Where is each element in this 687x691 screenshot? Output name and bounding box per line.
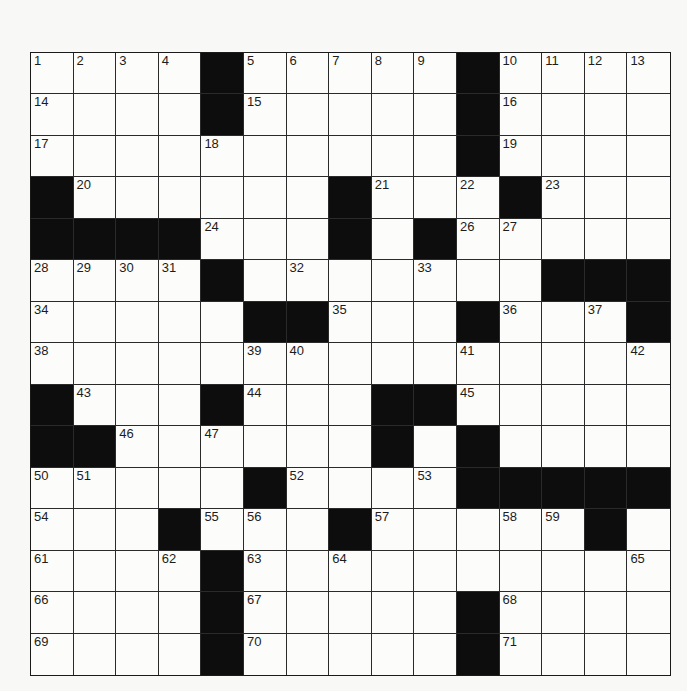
grid-cell[interactable] <box>627 509 670 550</box>
grid-cell[interactable] <box>329 592 372 633</box>
grid-cell[interactable]: 2 <box>74 53 117 94</box>
grid-cell[interactable]: 21 <box>372 177 415 218</box>
grid-cell[interactable]: 51 <box>74 468 117 509</box>
grid-cell[interactable]: 44 <box>244 385 287 426</box>
grid-cell[interactable] <box>585 94 628 135</box>
grid-cell[interactable]: 52 <box>287 468 330 509</box>
grid-cell[interactable] <box>627 592 670 633</box>
grid-cell[interactable] <box>372 592 415 633</box>
grid-cell[interactable] <box>414 136 457 177</box>
grid-cell[interactable]: 57 <box>372 509 415 550</box>
grid-cell[interactable]: 70 <box>244 634 287 675</box>
grid-cell[interactable] <box>500 260 543 301</box>
grid-cell[interactable] <box>414 426 457 467</box>
grid-cell[interactable]: 56 <box>244 509 287 550</box>
grid-cell[interactable] <box>585 385 628 426</box>
grid-cell[interactable] <box>74 136 117 177</box>
grid-cell[interactable]: 11 <box>542 53 585 94</box>
grid-cell[interactable] <box>159 592 202 633</box>
grid-cell[interactable] <box>244 260 287 301</box>
grid-cell[interactable]: 53 <box>414 468 457 509</box>
grid-cell[interactable] <box>244 136 287 177</box>
grid-cell[interactable]: 38 <box>31 343 74 384</box>
grid-cell[interactable]: 33 <box>414 260 457 301</box>
grid-cell[interactable] <box>116 343 159 384</box>
grid-cell[interactable] <box>287 592 330 633</box>
grid-cell[interactable]: 12 <box>585 53 628 94</box>
grid-cell[interactable]: 42 <box>627 343 670 384</box>
grid-cell[interactable] <box>116 302 159 343</box>
grid-cell[interactable]: 67 <box>244 592 287 633</box>
grid-cell[interactable] <box>500 385 543 426</box>
grid-cell[interactable]: 27 <box>500 219 543 260</box>
grid-cell[interactable]: 20 <box>74 177 117 218</box>
grid-cell[interactable]: 13 <box>627 53 670 94</box>
grid-cell[interactable]: 35 <box>329 302 372 343</box>
grid-cell[interactable] <box>159 136 202 177</box>
grid-cell[interactable] <box>287 634 330 675</box>
grid-cell[interactable] <box>372 343 415 384</box>
grid-cell[interactable] <box>116 468 159 509</box>
grid-cell[interactable] <box>372 634 415 675</box>
grid-cell[interactable]: 47 <box>201 426 244 467</box>
grid-cell[interactable]: 37 <box>585 302 628 343</box>
grid-cell[interactable] <box>116 94 159 135</box>
grid-cell[interactable] <box>287 177 330 218</box>
grid-cell[interactable] <box>116 634 159 675</box>
grid-cell[interactable] <box>201 468 244 509</box>
grid-cell[interactable] <box>74 634 117 675</box>
grid-cell[interactable] <box>585 634 628 675</box>
grid-cell[interactable]: 45 <box>457 385 500 426</box>
grid-cell[interactable] <box>116 177 159 218</box>
grid-cell[interactable] <box>542 551 585 592</box>
grid-cell[interactable] <box>627 385 670 426</box>
grid-cell[interactable]: 4 <box>159 53 202 94</box>
grid-cell[interactable] <box>585 177 628 218</box>
grid-cell[interactable] <box>201 343 244 384</box>
grid-cell[interactable] <box>287 385 330 426</box>
grid-cell[interactable] <box>244 177 287 218</box>
grid-cell[interactable] <box>244 219 287 260</box>
grid-cell[interactable]: 6 <box>287 53 330 94</box>
grid-cell[interactable]: 69 <box>31 634 74 675</box>
grid-cell[interactable] <box>287 551 330 592</box>
grid-cell[interactable]: 61 <box>31 551 74 592</box>
grid-cell[interactable] <box>329 385 372 426</box>
grid-cell[interactable] <box>116 136 159 177</box>
grid-cell[interactable] <box>542 592 585 633</box>
grid-cell[interactable] <box>159 94 202 135</box>
grid-cell[interactable]: 1 <box>31 53 74 94</box>
grid-cell[interactable] <box>542 302 585 343</box>
grid-cell[interactable] <box>585 343 628 384</box>
grid-cell[interactable]: 15 <box>244 94 287 135</box>
grid-cell[interactable] <box>457 260 500 301</box>
grid-cell[interactable] <box>372 136 415 177</box>
grid-cell[interactable]: 64 <box>329 551 372 592</box>
grid-cell[interactable] <box>74 592 117 633</box>
grid-cell[interactable] <box>74 302 117 343</box>
grid-cell[interactable]: 63 <box>244 551 287 592</box>
grid-cell[interactable]: 16 <box>500 94 543 135</box>
grid-cell[interactable]: 5 <box>244 53 287 94</box>
grid-cell[interactable] <box>542 136 585 177</box>
grid-cell[interactable] <box>159 302 202 343</box>
grid-cell[interactable]: 32 <box>287 260 330 301</box>
grid-cell[interactable] <box>414 177 457 218</box>
grid-cell[interactable]: 9 <box>414 53 457 94</box>
grid-cell[interactable]: 23 <box>542 177 585 218</box>
grid-cell[interactable]: 18 <box>201 136 244 177</box>
grid-cell[interactable] <box>201 302 244 343</box>
grid-cell[interactable] <box>287 219 330 260</box>
grid-cell[interactable] <box>159 634 202 675</box>
grid-cell[interactable] <box>287 509 330 550</box>
grid-cell[interactable] <box>414 634 457 675</box>
grid-cell[interactable] <box>74 94 117 135</box>
grid-cell[interactable]: 50 <box>31 468 74 509</box>
grid-cell[interactable] <box>74 551 117 592</box>
grid-cell[interactable] <box>329 136 372 177</box>
grid-cell[interactable] <box>372 302 415 343</box>
grid-cell[interactable]: 14 <box>31 94 74 135</box>
grid-cell[interactable]: 65 <box>627 551 670 592</box>
grid-cell[interactable] <box>329 426 372 467</box>
grid-cell[interactable]: 10 <box>500 53 543 94</box>
